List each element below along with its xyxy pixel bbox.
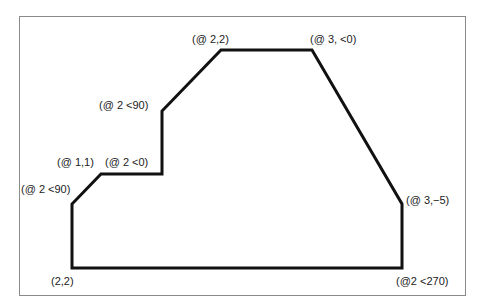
vertex-label-2: (@ 2 <90) — [21, 183, 70, 195]
vertex-label-7: (@ 3, <0) — [310, 33, 356, 45]
vertex-label-start: (2,2) — [51, 275, 74, 287]
vertex-label-5: (@ 2 <90) — [99, 99, 148, 111]
polyline-shape — [0, 0, 483, 307]
vertex-label-end: (@2 <270) — [396, 275, 448, 287]
vertex-label-6: (@ 2,2) — [192, 33, 229, 45]
vertex-label-8: (@ 3,−5) — [406, 194, 449, 206]
vertex-label-3: (@ 1,1) — [57, 156, 94, 168]
vertex-label-4: (@ 2 <0) — [105, 156, 148, 168]
